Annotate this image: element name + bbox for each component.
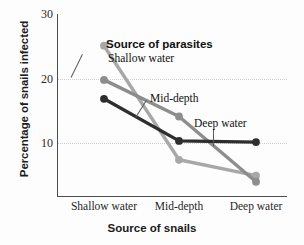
x-tick-label-shallow-water: Shallow water [71,200,137,212]
data-point [100,76,108,84]
leader-line-deep [213,129,214,146]
x-axis-title: Source of snails [0,222,304,234]
y-tick-label-10: 10 [41,136,53,151]
data-point [175,156,183,164]
series-label-shallow: Shallow water [108,52,174,64]
series-label-mid: Mid-depth [150,92,199,104]
data-point [100,95,108,103]
data-point [252,138,260,146]
data-point [175,113,183,121]
legend-heading: Source of parasites [106,38,213,50]
y-tick-label-30: 30 [41,7,53,22]
x-tick-label-mid-depth: Mid-depth [155,200,204,212]
series-label-deep: Deep water [194,117,247,129]
chart-figure: Percentage of snails infected Source of … [0,0,304,245]
y-tick-label-20: 20 [41,72,53,87]
x-tick-label-deep-water: Deep water [230,200,283,212]
data-point [175,137,183,145]
y-axis-title: Percentage of snails infected [18,4,30,194]
data-point [252,178,260,186]
